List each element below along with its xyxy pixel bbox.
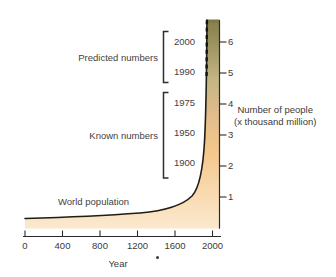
x-axis	[23, 231, 221, 237]
x-tick-label-0: 0	[22, 240, 27, 251]
population-curve	[25, 20, 207, 219]
callout-year-1990: 1990	[174, 66, 195, 77]
x-tick-label-400: 400	[55, 240, 71, 251]
y-tick-label-5: 5	[228, 67, 233, 78]
x-tick-label-1200: 1200	[127, 240, 148, 251]
x-axis-title: Year	[108, 258, 127, 269]
y-tick-label-3: 3	[228, 129, 233, 140]
y-axis-title-line1: Number of people	[234, 104, 316, 116]
stray-ink-dot	[156, 256, 159, 259]
known-numbers-label: Known numbers	[89, 130, 158, 141]
chart-canvas	[0, 0, 336, 277]
y-tick-label-2: 2	[228, 160, 233, 171]
population-growth-chart: 6 5 4 3 2 1 0 400 800 1200 1600 2000 Yea…	[0, 0, 336, 277]
series-label-world-population: World population	[58, 196, 129, 207]
x-tick-label-1600: 1600	[164, 240, 185, 251]
callout-year-1975: 1975	[174, 97, 195, 108]
y-axis-title: Number of people (x thousand million)	[234, 104, 316, 127]
known-bracket	[164, 93, 169, 179]
predicted-numbers-label: Predicted numbers	[78, 52, 158, 63]
y-tick-label-1: 1	[228, 191, 233, 202]
column-top-cap	[207, 20, 220, 23]
y-axis-title-line2: (x thousand million)	[234, 116, 316, 128]
y-axis	[220, 20, 227, 229]
x-tick-label-2000: 2000	[202, 240, 223, 251]
y-tick-label-6: 6	[228, 36, 233, 47]
callout-year-2000: 2000	[174, 36, 195, 47]
predicted-bracket	[164, 32, 169, 83]
x-tick-label-800: 800	[92, 240, 108, 251]
callout-year-1900: 1900	[174, 157, 195, 168]
callout-year-1950: 1950	[174, 127, 195, 138]
y-tick-label-4: 4	[228, 98, 233, 109]
